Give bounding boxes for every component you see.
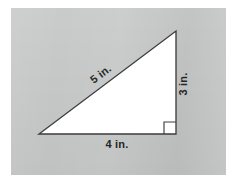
vertical-leg-length-label: 3 in.: [177, 72, 189, 95]
figure-root: 5 in. 3 in. 4 in.: [0, 0, 237, 191]
right-triangle-svg: 5 in. 3 in. 4 in.: [0, 0, 237, 191]
horizontal-leg-length-label: 4 in.: [105, 138, 128, 150]
triangle-shape: [39, 31, 176, 134]
